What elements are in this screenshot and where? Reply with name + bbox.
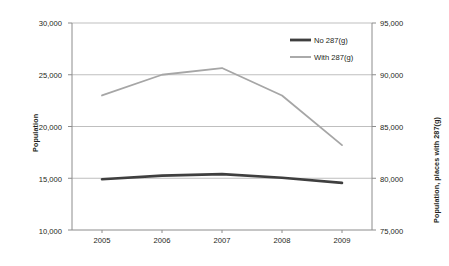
plot-area: [0, 0, 449, 266]
line-chart: Population Population, places with 287(g…: [0, 0, 449, 266]
y-tick-marks-left: [68, 23, 72, 230]
y-tick-marks-right: [372, 23, 376, 230]
series-line-with-287g: [102, 68, 342, 145]
gridlines: [72, 23, 372, 178]
